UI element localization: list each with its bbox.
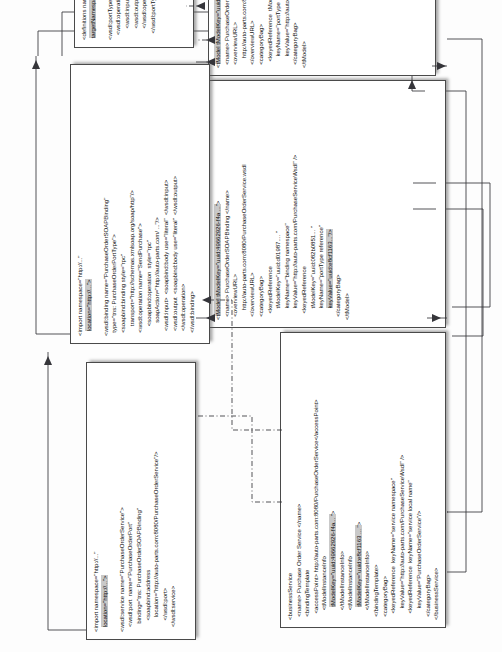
tmodel-porttype-code: <tModel tModelKey="uuid:e8cf1163 ..."> <… (209, 0, 314, 75)
tmodel-binding-box[interactable]: <tModel tModelKey="uuid:49662926-f4a ...… (208, 80, 446, 328)
tmodel-binding-code: <tModel tModelKey="uuid:49662926-f4a ...… (209, 149, 357, 327)
wsdl-porttype-code: <definitions name="PurchaseOrderService"… (75, 0, 162, 47)
diagram-rotation-wrapper: <businessService <name> Purchase Order S… (0, 0, 502, 652)
wsdl-service-box[interactable]: <import namespace="http://..." location=… (86, 362, 196, 640)
diagram-canvas: <businessService <name> Purchase Order S… (0, 0, 502, 652)
wsdl-binding-code: <import namespace="http://..." location=… (71, 170, 201, 343)
businessService-code: <businessService <name> Purchase Order S… (281, 393, 446, 627)
wsdl-porttype-box[interactable]: <definitions name="PurchaseOrderService"… (74, 0, 194, 48)
wsdl-service-code: <import namespace="http://..." location=… (87, 446, 183, 639)
wsdl-binding-box[interactable]: <import namespace="http://..." location=… (70, 64, 210, 344)
tmodel-porttype-box[interactable]: <tModel tModelKey="uuid:e8cf1163 ..."> <… (208, 0, 436, 76)
businessService-box[interactable]: <businessService <name> Purchase Order S… (280, 332, 446, 628)
